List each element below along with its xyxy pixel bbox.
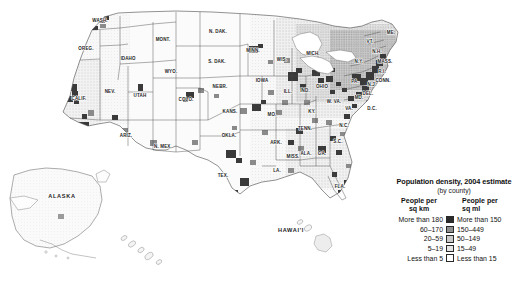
legend-header-metric: People per sq km (384, 197, 454, 213)
state-label: N.Y. (355, 59, 364, 64)
legend-label-imperial: More than 150 (454, 215, 502, 224)
state-label: LA. (273, 168, 281, 173)
state-label: WASH. (92, 18, 108, 23)
state-label: NEBR. (213, 84, 228, 89)
state-label: ALASKA (48, 193, 76, 199)
legend-column-headers: People per sq km People per sq ml (384, 197, 524, 213)
state-label: GA. (318, 151, 326, 156)
state-label: ARK. (270, 140, 282, 145)
state-label: TENN. (298, 126, 312, 131)
legend-swatch (446, 254, 454, 262)
legend-label-imperial: 50–149 (454, 234, 481, 243)
legend-subtitle: (by county) (384, 186, 524, 195)
state-label: VA. (345, 106, 353, 111)
legend-label-metric: Less than 5 (384, 254, 446, 263)
legend-header-imperial: People per sq ml (454, 197, 524, 213)
legend-label-metric: More than 180 (384, 215, 446, 224)
state-label: MINN. (246, 48, 260, 53)
legend-label-imperial: 15–49 (454, 244, 477, 253)
state-label: N.H. (372, 49, 382, 54)
state-label: FLA. (335, 184, 346, 189)
state-label: ARIZ. (120, 133, 133, 138)
legend-row: Less than 5Less than 15 (384, 253, 524, 263)
legend-header-imperial-line1: People per (462, 197, 524, 205)
state-label: N. MEX. (154, 144, 172, 149)
state-label: R.I. (378, 69, 386, 74)
state-label: OKLA. (222, 133, 237, 138)
state-label: ILL. (284, 89, 293, 94)
legend-label-metric: 5–19 (384, 244, 446, 253)
state-label: IDAHO (120, 56, 136, 61)
legend-header-metric-line1: People per (384, 197, 454, 205)
state-label: CALIF. (72, 96, 87, 101)
state-label: OREG. (78, 46, 93, 51)
legend-header-metric-line2: sq km (384, 205, 454, 213)
us-population-density-map: WASH.OREG.IDAHOMONT.WYO.NEV.UTAHCALIF.AR… (0, 0, 526, 288)
state-label: NEV. (105, 89, 116, 94)
state-label: D.C. (367, 106, 377, 111)
legend-row: 60–170150–449 (384, 225, 524, 235)
map-legend: Population density, 2004 estimate (by co… (384, 177, 524, 263)
state-label: KANS. (223, 109, 238, 114)
legend-label-imperial: Less than 15 (454, 254, 497, 263)
state-label: S. DAK. (208, 59, 226, 64)
state-label: N.C. (339, 123, 349, 128)
legend-label-metric: 60–170 (384, 225, 446, 234)
legend-header-imperial-line2: sq ml (462, 205, 524, 213)
legend-label-metric: 20–59 (384, 234, 446, 243)
state-label: WYO. (165, 69, 178, 74)
state-label: PA. (351, 79, 359, 84)
legend-title: Population density, 2004 estimate (384, 177, 524, 186)
state-label: CONN. (375, 78, 390, 83)
state-label: W. VA. (327, 99, 342, 104)
state-label: UTAH (134, 93, 147, 98)
state-label: MO. (268, 112, 277, 117)
state-label: TEX. (218, 173, 229, 178)
state-label: MICH. (306, 51, 320, 56)
legend-row: 20–5950–149 (384, 234, 524, 244)
state-label: IOWA (256, 78, 269, 83)
legend-row: 5–1915–49 (384, 244, 524, 254)
legend-swatch (446, 226, 454, 234)
state-label: WIS. (277, 57, 287, 62)
legend-swatch (446, 245, 454, 253)
state-label: MASS. (377, 59, 392, 64)
state-label: DEL. (363, 91, 374, 96)
state-label: VT. (367, 39, 374, 44)
state-label: N. DAK. (209, 29, 227, 34)
state-label: OHIO (316, 84, 328, 89)
state-label: MONT. (156, 37, 171, 42)
state-label: HAWAI'I (278, 227, 304, 233)
legend-swatch (446, 235, 454, 243)
legend-swatch (446, 216, 454, 224)
state-label: ALA. (300, 151, 311, 156)
state-label: IND. (300, 88, 310, 93)
legend-label-imperial: 150–449 (454, 225, 484, 234)
legend-row: More than 180More than 150 (384, 215, 524, 225)
state-label: ME. (387, 30, 395, 35)
state-label: COLO. (179, 97, 194, 102)
state-label: KY. (308, 109, 315, 114)
state-label: S.C. (333, 139, 342, 144)
state-label: MISS. (286, 154, 299, 159)
legend-rows: More than 180More than 15060–170150–4492… (384, 215, 524, 263)
